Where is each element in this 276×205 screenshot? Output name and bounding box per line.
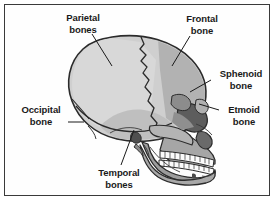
label-frontal-bone: Frontal bone: [178, 13, 226, 36]
skull-anatomy-figure: Parietal bones Frontal bone Sphenoid bon…: [0, 0, 276, 205]
label-parietal-line2: bones: [57, 24, 109, 36]
label-parietal-bones: Parietal bones: [57, 12, 109, 35]
label-temporal-bones: Temporal bones: [92, 167, 146, 190]
mastoid-process: [134, 144, 143, 156]
label-etmoid-line1: Etmoid: [220, 104, 268, 116]
label-occipital-bone: Occipital bone: [14, 104, 68, 127]
label-temporal-line1: Temporal: [92, 167, 146, 179]
label-etmoid-line2: bone: [220, 116, 268, 128]
label-frontal-line2: bone: [178, 25, 226, 37]
label-sphenoid-line1: Sphenoid: [212, 68, 270, 80]
label-occipital-line1: Occipital: [14, 104, 68, 116]
label-occipital-line2: bone: [14, 116, 68, 128]
label-etmoid-bone: Etmoid bone: [220, 104, 268, 127]
label-sphenoid-line2: bone: [212, 80, 270, 92]
label-parietal-line1: Parietal: [57, 12, 109, 24]
label-sphenoid-bone: Sphenoid bone: [212, 68, 270, 91]
label-frontal-line1: Frontal: [178, 13, 226, 25]
label-temporal-line2: bones: [92, 179, 146, 191]
